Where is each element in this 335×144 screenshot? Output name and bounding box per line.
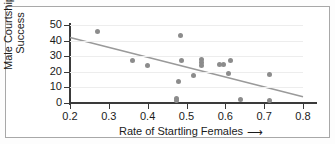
data-point: [130, 58, 135, 63]
figure: Male Courtship Success Rate of Startling…: [0, 0, 335, 144]
y-axis-title: Male Courtship Success: [2, 0, 26, 85]
data-point: [226, 71, 231, 76]
y-tick: [64, 87, 69, 88]
x-tick-label: 0.6: [208, 110, 242, 122]
y-tick-label-text: 40: [38, 35, 62, 46]
y-tick-label: 50: [34, 19, 62, 30]
x-tick-label: 0.8: [286, 110, 320, 122]
y-tick: [64, 72, 69, 73]
x-tick: [148, 104, 149, 109]
y-tick-label-text: 20: [38, 66, 62, 77]
y-tick: [64, 56, 69, 57]
trend-line: [70, 25, 303, 103]
data-point: [221, 62, 226, 67]
x-tick-label: 0.4: [131, 110, 165, 122]
y-tick-label-text: 30: [38, 50, 62, 61]
data-point: [176, 79, 181, 84]
y-axis-title-line1: Male Courtship: [2, 0, 14, 70]
x-tick: [109, 104, 110, 109]
x-tick: [264, 104, 265, 109]
y-tick-label: 20: [34, 66, 62, 77]
x-axis-title: Rate of Startling Females⟶: [66, 125, 316, 139]
gridline-y: [70, 56, 303, 57]
x-tick-label: 0.7: [247, 110, 281, 122]
x-tick: [303, 104, 304, 109]
y-tick-label-text: 0: [38, 97, 62, 108]
data-point: [267, 72, 272, 77]
data-point: [228, 58, 233, 63]
x-tick-label: 0.2: [53, 110, 87, 122]
x-tick-label: 0.3: [92, 110, 126, 122]
data-point: [178, 33, 183, 38]
y-tick: [64, 25, 69, 26]
x-tick: [187, 104, 188, 109]
y-tick-label: 40: [34, 35, 62, 46]
figure-frame: Male Courtship Success Rate of Startling…: [5, 6, 330, 138]
y-tick-label-text: 10: [38, 81, 62, 92]
x-tick-label: 0.5: [170, 110, 204, 122]
y-axis-title-line2: Success: [14, 0, 26, 85]
y-tick: [64, 41, 69, 42]
x-axis-title-text: Rate of Startling Females: [119, 125, 243, 137]
gridline-y: [70, 25, 303, 26]
y-tick: [64, 103, 69, 104]
gridline-y: [70, 87, 303, 88]
y-tick-label: 30: [34, 50, 62, 61]
y-tick-label: 0: [34, 97, 62, 108]
data-point: [199, 63, 204, 68]
y-tick-label-text: 50: [38, 19, 62, 30]
plot-area: [70, 25, 303, 103]
x-tick: [70, 104, 71, 109]
gridline-y: [70, 41, 303, 42]
data-point: [95, 29, 100, 34]
x-tick: [225, 104, 226, 109]
arrow-right-icon: ⟶: [247, 126, 263, 139]
y-tick-label: 10: [34, 81, 62, 92]
